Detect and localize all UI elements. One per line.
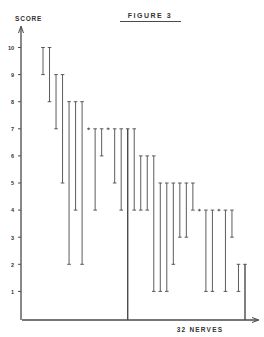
range-chart: FIGURE 3 SCORE 32 NERVES 12345678910 [0, 0, 264, 337]
nerve-range-bar [67, 102, 71, 265]
nerve-range-bar [119, 129, 123, 210]
y-tick-label: 3 [11, 235, 14, 241]
nerve-range-bar [132, 129, 136, 210]
range-bars [41, 48, 247, 321]
nerve-range-bar [158, 183, 162, 291]
nerve-range-bar [172, 183, 176, 264]
nerve-range-bar [74, 102, 78, 210]
nerve-range-bar [185, 183, 189, 237]
nerve-range-bar [191, 183, 195, 210]
nerve-range-bar [126, 129, 130, 320]
title-group: FIGURE 3 [120, 12, 181, 22]
y-tick-label: 5 [11, 180, 14, 186]
nerve-range-bar [211, 210, 215, 291]
nerve-range-bar [113, 129, 117, 183]
nerve-range-bar [224, 210, 228, 291]
nerve-range-bar [139, 156, 143, 210]
nerve-range-bar [178, 183, 182, 237]
y-tick-label: 7 [11, 126, 14, 132]
nerve-range-bar [204, 210, 208, 291]
y-tick-label: 1 [11, 289, 14, 295]
nerve-range-bar [237, 264, 241, 291]
nerve-range-bar [243, 264, 247, 320]
nerve-range-bar [217, 209, 220, 212]
nerve-range-bar [100, 129, 104, 156]
nerve-range-bar [152, 156, 156, 292]
nerve-range-bar [165, 183, 169, 291]
nerve-range-bar [87, 128, 90, 131]
nerve-range-bar [198, 209, 201, 212]
nerve-range-bar [80, 102, 84, 265]
nerve-range-bar [54, 75, 58, 129]
nerve-range-bar [48, 48, 52, 102]
y-tick-label: 4 [11, 207, 15, 213]
y-tick-label: 8 [11, 99, 14, 105]
y-tick-label: 10 [8, 45, 14, 51]
y-tick-label: 6 [11, 153, 14, 159]
y-axis-label: SCORE [15, 15, 42, 22]
y-tick-label: 2 [11, 262, 14, 268]
nerve-range-bar [107, 128, 110, 131]
y-ticks: 12345678910 [8, 45, 21, 295]
nerve-range-bar [93, 129, 97, 210]
y-tick-label: 9 [11, 72, 14, 78]
axes [19, 26, 260, 323]
nerve-range-bar [145, 156, 149, 210]
nerve-range-bar [230, 210, 234, 237]
x-axis-label: 32 NERVES [177, 326, 223, 333]
chart-title: FIGURE 3 [128, 12, 172, 19]
nerve-range-bar [61, 75, 65, 183]
nerve-range-bar [41, 48, 45, 75]
